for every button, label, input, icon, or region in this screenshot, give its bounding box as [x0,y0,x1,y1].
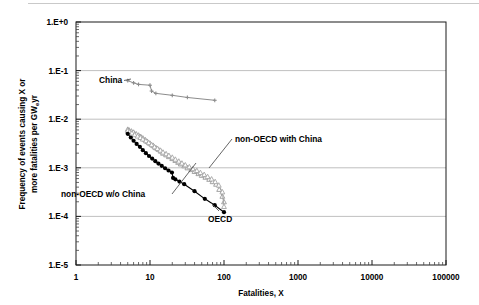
y-tick-label: 1.E+0 [46,18,68,27]
fatality-frequency-chart: 1.E+01.E-11.E-21.E-31.E-41.E-5 110100100… [0,0,479,305]
x-axis-tick-labels: 110100100010000100000 [74,273,460,282]
data-point [182,182,186,186]
data-point [138,145,142,149]
x-tick-label: 10000 [361,273,384,282]
non-oecd-wo-china-label: non-OECD w/o China [61,189,146,199]
data-point [126,132,130,136]
y-tick-label: 1.E-1 [48,67,68,76]
china-label: China [99,75,123,85]
non-oecd-with-china-label: non-OECD with China [235,134,322,144]
y-tick-label: 1.E-3 [48,164,68,173]
oecd-label: OECD [208,214,232,224]
x-tick-label: 100 [217,273,231,282]
data-point [203,197,207,201]
data-point [192,189,196,193]
y-axis-tick-labels: 1.E+01.E-11.E-21.E-31.E-41.E-5 [46,18,68,270]
data-point [141,148,145,152]
x-tick-label: 100000 [432,273,460,282]
y-tick-label: 1.E-2 [48,115,68,124]
x-tick-label: 1000 [289,273,308,282]
y-axis-title: Frequency of events causing X or more fa… [18,78,40,210]
data-point [135,142,139,146]
y-tick-label: 1.E-5 [48,261,68,270]
data-point [173,177,177,181]
data-point [144,151,148,155]
data-point [170,170,174,174]
x-axis-title: Fatalities, X [238,289,284,298]
data-point [160,164,164,168]
y-axis-title-line1: Frequency of events causing X or [18,78,27,210]
data-point [129,135,133,139]
chart-page: 1.E+01.E-11.E-21.E-31.E-41.E-5 110100100… [0,0,479,305]
y-axis-title-line2: more fatalities per GWeyr [30,94,40,193]
chart-container: 1.E+01.E-11.E-21.E-31.E-41.E-5 110100100… [0,0,479,305]
x-tick-label: 1 [74,273,79,282]
y-tick-label: 1.E-4 [48,212,68,221]
data-point [131,139,135,143]
data-point [163,166,167,170]
x-tick-label: 10 [145,273,155,282]
